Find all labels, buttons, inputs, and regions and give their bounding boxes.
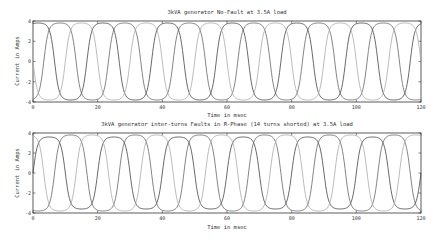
bottom-chart-xlabel: Time in msec xyxy=(33,224,421,230)
x-tick-label: 20 xyxy=(95,215,101,221)
bottom-chart-panel: 3kVA generator inter-turns Faults in R-P… xyxy=(0,0,439,245)
y-tick-label: -2 xyxy=(25,190,31,196)
x-tick-label: 120 xyxy=(416,215,425,221)
y-tick-label: -4 xyxy=(25,210,31,216)
x-tick-label: 40 xyxy=(159,215,165,221)
series-line xyxy=(33,137,421,209)
x-tick-label: 80 xyxy=(289,215,295,221)
x-tick-label: 0 xyxy=(31,215,34,221)
y-tick-label: 0 xyxy=(28,170,31,176)
y-tick-label: 4 xyxy=(28,130,31,136)
y-tick-label: 2 xyxy=(28,150,31,156)
bottom-chart-plot: 020406080100120-4-2024 xyxy=(0,0,439,245)
x-tick-label: 60 xyxy=(224,215,230,221)
x-tick-label: 100 xyxy=(352,215,361,221)
